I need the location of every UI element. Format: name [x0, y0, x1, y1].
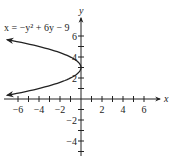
- x-tick-label: −4: [34, 104, 45, 115]
- x-tick-label: −2: [55, 104, 66, 115]
- graph: −6−4−2246 642−2−4 x y x = −y² + 6y − 9: [0, 0, 172, 158]
- x-axis-label: x: [163, 93, 169, 104]
- x-tick-label: 2: [100, 104, 105, 115]
- y-tick-labels: 642−2−4: [66, 31, 77, 147]
- y-tick-label: 6: [72, 31, 77, 42]
- x-tick-label: 4: [121, 104, 126, 115]
- y-tick-label: −2: [66, 115, 77, 126]
- equation-annotation: x = −y² + 6y − 9: [4, 22, 70, 33]
- x-tick-label: −6: [13, 104, 24, 115]
- parabola-curve: [7, 40, 81, 96]
- y-axis-label: y: [78, 5, 84, 16]
- y-tick-label: −4: [66, 136, 77, 147]
- x-tick-label: 6: [142, 104, 147, 115]
